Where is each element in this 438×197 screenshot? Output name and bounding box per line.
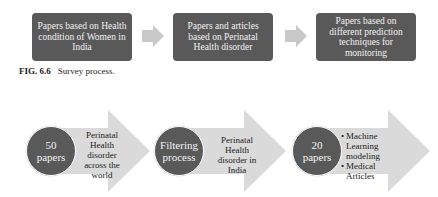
circle-line: 50	[37, 139, 66, 151]
step-circle-filtering-process: Filteringprocess	[154, 126, 204, 176]
bullet-item: Medical Articles	[341, 161, 393, 181]
flow-box-prediction-techniques: Papers based on different prediction tec…	[316, 13, 416, 61]
bullet-item: Machine Learning modeling	[341, 131, 393, 161]
flow-box-label: Papers and articles based on Perinatal H…	[177, 21, 269, 53]
step-circle-50-papers: 50papers	[26, 126, 76, 176]
step-description: Perinatal Health disorder across the wor…	[78, 130, 126, 180]
right-arrow-icon	[285, 25, 307, 47]
step-circle-20-papers: 20papers	[292, 126, 342, 176]
step-bullet-list: Machine Learning modeling Medical Articl…	[341, 131, 393, 181]
flow-box-perinatal-disorder: Papers and articles based on Perinatal H…	[173, 13, 273, 61]
figure-caption-text: Survey process.	[58, 66, 115, 76]
flow-box-label: Papers based on different prediction tec…	[320, 16, 412, 58]
step-description: Perinatal Health disorder in India	[212, 135, 262, 175]
circle-line: process	[160, 151, 198, 163]
flow-box-health-condition: Papers based on Health condition of Wome…	[32, 13, 132, 61]
figure-caption: FIG. 6.6Survey process.	[19, 66, 115, 76]
right-arrow-icon	[142, 25, 164, 47]
circle-line: papers	[37, 151, 66, 163]
circle-line: papers	[303, 151, 332, 163]
flow-box-label: Papers based on Health condition of Wome…	[36, 21, 128, 53]
circle-line: Filtering	[160, 139, 198, 151]
figure-number: FIG. 6.6	[19, 66, 51, 76]
circle-line: 20	[303, 139, 332, 151]
